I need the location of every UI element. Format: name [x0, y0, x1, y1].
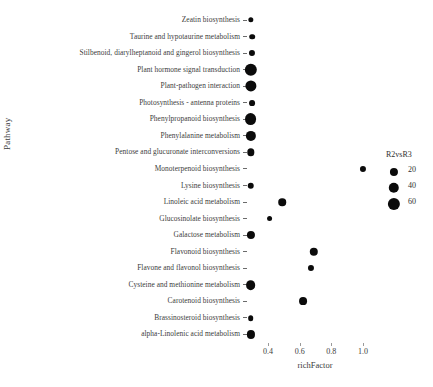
y-axis-tick-label: Phenylalanine metabolism: [161, 132, 240, 140]
data-point[interactable]: [299, 297, 307, 305]
y-axis-tick-label: Glucosinolate biosynthesis: [159, 215, 240, 223]
legend-label: 40: [408, 181, 416, 190]
legend-marker: [390, 168, 398, 176]
x-axis-tick-label: 1.0: [358, 347, 368, 356]
y-axis-tick-label: Brassinosteroid biosynthesis: [154, 314, 240, 322]
y-axis-tick-label: Photosynthesis - antenna proteins: [139, 99, 240, 107]
y-axis-title: Pathway: [2, 80, 12, 150]
y-axis-tick-label: Plant-pathogen interaction: [161, 82, 241, 90]
y-axis-tick-label: Monoterpenoid biosynthesis: [155, 165, 240, 173]
x-axis-title: richFactor: [298, 360, 333, 370]
x-axis-tick-label: 0.4: [263, 347, 273, 356]
y-axis-tick-mark: [243, 202, 247, 203]
y-axis-tick-mark: [243, 168, 247, 169]
y-axis-tick-label: Flavone and flavonol biosynthesis: [137, 264, 240, 272]
x-axis-tick-mark: [363, 343, 364, 346]
y-axis-tick-label: alpha-Linolenic acid metabolism: [141, 330, 240, 338]
legend-title: R2vsR3: [386, 150, 412, 159]
y-axis-tick-mark: [243, 53, 247, 54]
y-axis-tick-label: Linoleic acid metabolism: [164, 198, 240, 206]
legend-marker: [389, 183, 399, 193]
y-axis-tick-label: Galactose metabolism: [174, 231, 240, 239]
y-axis-tick-label: Phenylpropanoid biosynthesis: [150, 115, 240, 123]
y-axis-tick-label: Zeatin biosynthesis: [182, 16, 240, 24]
x-axis-tick-mark: [331, 343, 332, 346]
data-point[interactable]: [247, 330, 255, 338]
y-axis-tick-mark: [243, 251, 247, 252]
y-axis-tick-mark: [243, 268, 247, 269]
data-point[interactable]: [247, 149, 254, 156]
data-point[interactable]: [245, 131, 255, 141]
data-point[interactable]: [245, 113, 257, 125]
data-point[interactable]: [267, 216, 273, 222]
y-axis-tick-mark: [243, 218, 247, 219]
data-point[interactable]: [310, 247, 318, 255]
x-axis-tick-label: 0.6: [295, 347, 305, 356]
legend-label: 20: [408, 165, 416, 174]
y-axis-tick-label: Stilbenoid, diarylheptanoid and gingerol…: [79, 49, 240, 57]
y-axis-tick-mark: [243, 301, 247, 302]
data-point[interactable]: [278, 198, 286, 206]
data-point[interactable]: [249, 100, 255, 106]
y-axis-tick-label: Carotenoid biosynthesis: [168, 297, 240, 305]
bubble-chart: Pathway Zeatin biosynthesisTaurine and h…: [0, 0, 433, 387]
y-axis-tick-label: Pentose and glucuronate interconversions: [115, 148, 240, 156]
legend-marker: [388, 198, 400, 210]
y-axis-tick-mark: [243, 20, 247, 21]
y-axis-tick-label: Cysteine and methionine metabolism: [128, 281, 240, 289]
x-axis-tick-label: 0.8: [326, 347, 336, 356]
data-point[interactable]: [247, 182, 254, 189]
y-axis-tick-label: Plant hormone signal transduction: [137, 66, 240, 74]
data-point[interactable]: [245, 81, 256, 92]
y-axis-tick-mark: [243, 317, 247, 318]
y-axis-tick-label: Taurine and hypotaurine metabolism: [130, 33, 240, 41]
data-point[interactable]: [248, 17, 253, 22]
data-point[interactable]: [247, 231, 255, 239]
x-axis-tick-mark: [300, 343, 301, 346]
y-axis-tick-mark: [243, 102, 247, 103]
data-point[interactable]: [246, 280, 256, 290]
y-axis-tick-mark: [243, 36, 247, 37]
data-point[interactable]: [244, 63, 256, 75]
legend-label: 60: [408, 197, 416, 206]
y-axis-tick-label: Lysine biosynthesis: [181, 182, 240, 190]
x-axis-tick-mark: [268, 343, 269, 346]
data-point[interactable]: [249, 50, 255, 56]
data-point[interactable]: [248, 315, 254, 321]
data-point[interactable]: [249, 34, 255, 40]
data-point[interactable]: [308, 265, 314, 271]
y-axis-tick-label: Flavonoid biosynthesis: [171, 248, 240, 256]
data-point[interactable]: [360, 166, 366, 172]
